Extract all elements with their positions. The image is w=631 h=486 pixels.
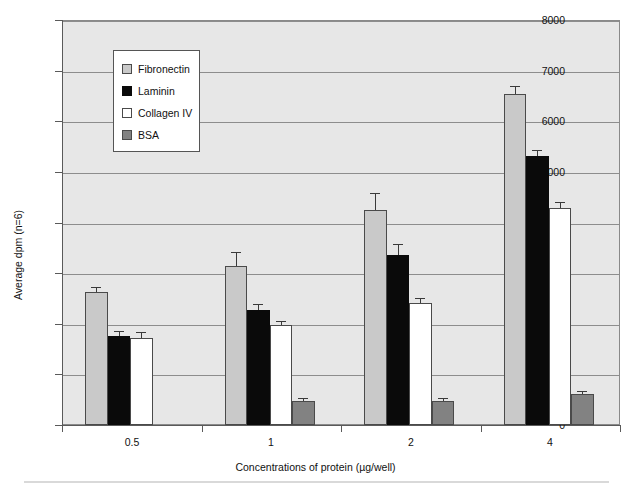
y-axis-line <box>62 20 63 426</box>
legend-label: BSA <box>138 129 159 141</box>
legend-label: Fibronectin <box>138 63 190 75</box>
bar-laminin-0.5 <box>108 336 131 425</box>
bar-fibronectin-4 <box>504 94 527 425</box>
y-axis-tick <box>55 71 62 72</box>
error-bar-cap <box>91 287 101 288</box>
error-bar-cap <box>393 244 403 245</box>
bar-bsa-1 <box>292 401 315 425</box>
x-axis-tick-label: 0.5 <box>125 436 140 448</box>
error-bar-stem <box>515 86 516 94</box>
bar-fibronectin-1 <box>225 266 248 425</box>
gridline <box>63 21 619 22</box>
error-bar-cap <box>136 332 146 333</box>
error-bar-cap <box>298 398 308 399</box>
legend-item-bsa: BSA <box>114 124 199 146</box>
y-axis-title: Average dpm (n=6) <box>12 210 24 300</box>
bar-laminin-2 <box>387 255 410 425</box>
error-bar-cap <box>415 298 425 299</box>
error-bar-cap <box>276 321 286 322</box>
y-axis-tick-label: 8000 <box>542 14 565 26</box>
bar-collagen-0.5 <box>130 338 153 425</box>
error-bar-cap <box>555 202 565 203</box>
legend-item-collagen-iv: Collagen IV <box>114 102 199 124</box>
error-bar-laminin-0.5 <box>114 331 124 336</box>
legend-swatch-icon <box>122 86 132 96</box>
bar-chart: 010002000300040005000600070008000 0.5124… <box>0 0 631 486</box>
legend-label: Laminin <box>138 85 175 97</box>
x-axis-tick-label: 1 <box>268 436 274 448</box>
error-bar-fibronectin-2 <box>370 193 380 210</box>
error-bar-fibronectin-0.5 <box>91 287 101 293</box>
bar-laminin-4 <box>526 156 549 425</box>
error-bar-fibronectin-1 <box>231 252 241 265</box>
error-bar-fibronectin-4 <box>510 86 520 94</box>
y-axis-tick <box>55 121 62 122</box>
error-bar-cap <box>231 252 241 253</box>
error-bar-cap <box>510 86 520 87</box>
error-bar-stem <box>236 252 237 265</box>
legend-item-fibronectin: Fibronectin <box>114 58 199 80</box>
error-bar-cap <box>532 150 542 151</box>
legend-item-laminin: Laminin <box>114 80 199 102</box>
error-bar-stem <box>375 193 376 210</box>
x-axis-tick-origin <box>62 425 63 432</box>
x-axis-tick-label: 4 <box>547 436 553 448</box>
x-axis-title: Concentrations of protein (µg/well) <box>0 461 631 473</box>
bar-collagen-2 <box>409 303 432 425</box>
error-bar-collagen-0.5 <box>136 332 146 338</box>
bar-collagen-1 <box>270 325 293 425</box>
error-bar-laminin-1 <box>253 304 263 310</box>
legend-swatch-icon <box>122 108 132 118</box>
y-axis-tick-label: 7000 <box>542 65 565 77</box>
y-axis-tick <box>55 425 62 426</box>
y-axis-tick-label: 6000 <box>542 115 565 127</box>
y-axis-tick <box>55 374 62 375</box>
error-bar-collagen-2 <box>415 298 425 303</box>
error-bar-laminin-4 <box>532 150 542 156</box>
error-bar-cap <box>438 398 448 399</box>
y-axis-tick <box>55 20 62 21</box>
x-axis-tick <box>620 425 621 432</box>
error-bar-laminin-2 <box>393 244 403 255</box>
error-bar-bsa-4 <box>577 391 587 394</box>
error-bar-collagen-1 <box>276 321 286 326</box>
x-axis-tick <box>481 425 482 432</box>
y-axis-tick <box>55 324 62 325</box>
x-axis-tick <box>202 425 203 432</box>
legend-label: Collagen IV <box>138 107 192 119</box>
x-axis-tick-label: 2 <box>408 436 414 448</box>
error-bar-stem <box>398 244 399 255</box>
error-bar-bsa-1 <box>298 398 308 401</box>
bar-fibronectin-0.5 <box>85 292 108 425</box>
error-bar-bsa-2 <box>438 398 448 401</box>
y-axis-tick <box>55 223 62 224</box>
y-axis-tick <box>55 273 62 274</box>
y-axis-tick <box>55 172 62 173</box>
bar-collagen-4 <box>549 208 572 425</box>
error-bar-cap <box>253 304 263 305</box>
error-bar-cap <box>370 193 380 194</box>
caption-sliver <box>24 481 609 483</box>
bar-bsa-2 <box>432 401 455 425</box>
bar-laminin-1 <box>247 310 270 425</box>
error-bar-collagen-4 <box>555 202 565 208</box>
chart-legend: Fibronectin Laminin Collagen IV BSA <box>113 50 200 152</box>
error-bar-cap <box>114 331 124 332</box>
legend-swatch-icon <box>122 64 132 74</box>
x-axis-tick <box>341 425 342 432</box>
error-bar-cap <box>577 391 587 392</box>
bar-bsa-4 <box>571 394 594 425</box>
bar-fibronectin-2 <box>364 210 387 425</box>
legend-swatch-icon <box>122 130 132 140</box>
